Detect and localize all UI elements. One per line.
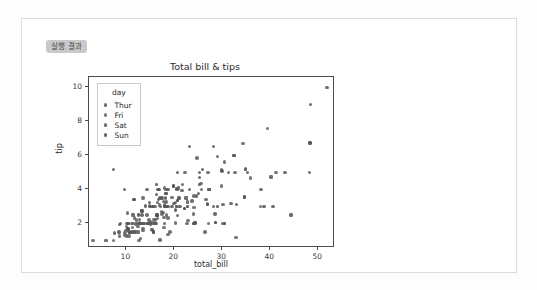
scatter-point <box>249 176 252 179</box>
scatter-point <box>155 222 158 225</box>
scatter-point <box>137 230 140 233</box>
scatter-point <box>126 211 129 214</box>
scatter-point <box>119 222 122 225</box>
legend-item-thur[interactable]: Thur <box>104 100 132 110</box>
scatter-point <box>197 192 200 195</box>
scatter-point <box>283 171 286 174</box>
x-tick-label: 10 <box>113 252 137 261</box>
scatter-point <box>243 195 246 198</box>
scatter-point <box>232 154 235 157</box>
scatter-point <box>198 176 201 179</box>
scatter-point <box>213 212 216 215</box>
chart-legend: day ThurFriSatSun <box>97 83 141 146</box>
scatter-point <box>172 184 175 187</box>
matplotlib-figure: Total bill & tips tip total_bill 246810 … <box>45 49 365 274</box>
scatter-point <box>199 182 202 185</box>
legend-item-label: Thur <box>114 101 131 110</box>
scatter-point <box>145 213 148 216</box>
scatter-point <box>201 168 204 171</box>
scatter-point <box>192 206 195 209</box>
x-tick-label: 30 <box>209 252 233 261</box>
x-tick-mark <box>125 247 126 250</box>
legend-item-label: Sat <box>114 121 126 130</box>
scatter-point <box>216 155 219 158</box>
scatter-point <box>259 188 262 191</box>
scatter-point <box>188 188 191 191</box>
scatter-point <box>266 127 269 130</box>
scatter-point <box>155 183 158 186</box>
x-tick-label: 50 <box>305 252 329 261</box>
scatter-point <box>154 218 157 221</box>
screenshot-root: 실행 결과 Total bill & tips tip total_bill 2… <box>0 0 537 290</box>
legend-item-sun[interactable]: Sun <box>104 130 132 140</box>
scatter-point <box>186 200 189 203</box>
scatter-point <box>112 168 115 171</box>
scatter-point <box>234 236 237 239</box>
scatter-point <box>203 230 206 233</box>
legend-marker-icon <box>104 123 107 126</box>
scatter-point <box>162 226 165 229</box>
scatter-point <box>161 211 164 214</box>
scatter-point <box>132 230 135 233</box>
scatter-point <box>233 171 236 174</box>
scatter-point <box>309 103 312 106</box>
scatter-point <box>145 188 148 191</box>
legend-item-label: Fri <box>114 111 123 120</box>
scatter-point <box>192 212 195 215</box>
legend-item-label: Sun <box>114 131 128 140</box>
legend-title: day <box>112 88 132 97</box>
x-tick-label: 20 <box>161 252 185 261</box>
scatter-point <box>164 196 167 199</box>
result-card: 실행 결과 Total bill & tips tip total_bill 2… <box>21 18 517 273</box>
scatter-point <box>113 231 116 234</box>
scatter-point <box>159 205 162 208</box>
scatter-point <box>190 199 193 202</box>
scatter-point <box>188 145 191 148</box>
scatter-point <box>131 226 134 229</box>
scatter-point <box>206 171 209 174</box>
scatter-point <box>223 160 226 163</box>
scatter-point <box>235 203 238 206</box>
scatter-point <box>214 221 217 224</box>
scatter-point <box>289 213 292 216</box>
scatter-point <box>216 205 219 208</box>
x-tick-mark <box>173 247 174 250</box>
legend-item-fri[interactable]: Fri <box>104 110 132 120</box>
scatter-point <box>241 142 244 145</box>
scatter-point <box>146 222 149 225</box>
scatter-point <box>91 239 94 242</box>
scatter-point <box>204 198 207 201</box>
scatter-point <box>262 205 265 208</box>
scatter-point <box>174 209 177 212</box>
scatter-point <box>158 238 161 241</box>
x-tick-mark <box>317 247 318 250</box>
scatter-point <box>151 205 154 208</box>
scatter-point <box>141 196 144 199</box>
scatter-point <box>104 239 107 242</box>
scatter-point <box>176 171 179 174</box>
x-tick-mark <box>221 247 222 250</box>
scatter-point <box>269 175 272 178</box>
legend-item-sat[interactable]: Sat <box>104 120 132 130</box>
scatter-point <box>140 209 143 212</box>
scatter-point <box>166 233 169 236</box>
scatter-point <box>166 216 169 219</box>
scatter-point <box>132 198 135 201</box>
scatter-point <box>271 205 274 208</box>
x-tick-mark <box>269 247 270 250</box>
scatter-point <box>126 222 129 225</box>
scatter-point <box>128 231 131 234</box>
scatter-point <box>207 188 210 191</box>
scatter-point <box>112 239 115 242</box>
scatter-point <box>184 196 187 199</box>
scatter-point <box>195 156 198 159</box>
scatter-point <box>138 218 141 221</box>
scatter-point <box>164 192 167 195</box>
scatter-point <box>186 205 189 208</box>
scatter-point <box>183 171 186 174</box>
legend-marker-icon <box>104 103 107 106</box>
scatter-point <box>118 234 121 237</box>
scatter-point <box>308 141 311 144</box>
scatter-point <box>229 202 232 205</box>
scatter-point <box>163 222 166 225</box>
